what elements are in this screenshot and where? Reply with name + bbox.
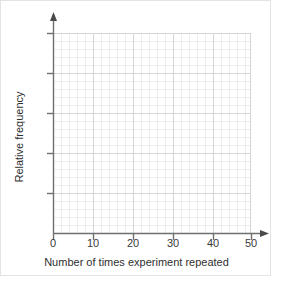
x-tick-label-10: 10 (78, 237, 108, 249)
x-axis-arrowhead (260, 230, 269, 237)
x-tick-label-20: 20 (118, 237, 148, 249)
x-tick-label-0: 0 (38, 237, 68, 249)
y-axis-title-wrapper: Relative frequency (13, 0, 25, 57)
y-axis-title: Relative frequency (13, 57, 25, 217)
axes-group (1, 1, 272, 277)
x-tick-label-40: 40 (198, 237, 228, 249)
y-axis-ticks (47, 34, 54, 194)
x-tick-label-30: 30 (158, 237, 188, 249)
y-axis-arrowhead (50, 12, 57, 21)
figure-card: 0 10 20 30 40 50 Number of times experim… (0, 0, 271, 276)
x-axis-title: Number of times experiment repeated (1, 256, 272, 268)
x-tick-label-50: 50 (236, 237, 266, 249)
